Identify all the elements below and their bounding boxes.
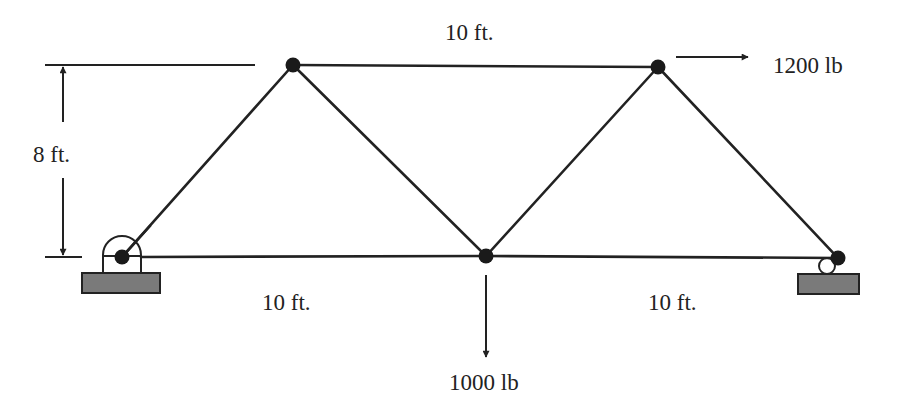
truss-diagram: 10 ft. 8 ft. 10 ft. 10 ft. 1200 lb 1000 … xyxy=(0,0,913,415)
member-bd xyxy=(293,65,658,67)
joint-c xyxy=(479,249,494,264)
joint-e xyxy=(831,251,846,266)
vertical-load-label: 1000 lb xyxy=(449,370,519,395)
joint-b xyxy=(286,58,301,73)
roller-support-icon xyxy=(798,258,859,294)
height-label: 8 ft. xyxy=(33,142,70,167)
member-ac xyxy=(141,256,486,257)
horizontal-load-label: 1200 lb xyxy=(773,53,843,78)
member-cd xyxy=(486,67,658,256)
top-span-label: 10 ft. xyxy=(445,20,494,45)
bottom-left-span-label: 10 ft. xyxy=(262,290,311,315)
member-de xyxy=(658,67,838,258)
member-bc xyxy=(293,65,486,256)
joint-d xyxy=(651,60,666,75)
truss-members xyxy=(122,65,838,258)
truss-joints xyxy=(115,58,846,266)
member-ce xyxy=(486,256,838,258)
bottom-right-span-label: 10 ft. xyxy=(648,290,697,315)
joint-a xyxy=(115,250,130,265)
